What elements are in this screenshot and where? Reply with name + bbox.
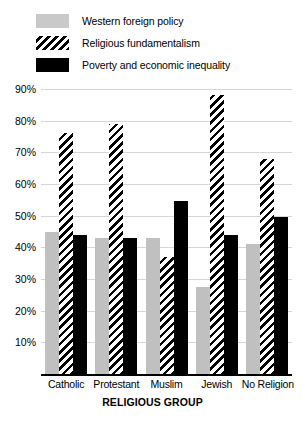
y-axis-tick-labels: 90%80%70%60%50%40%30%20%10%: [0, 89, 36, 374]
y-axis-tick-label: 10%: [4, 336, 36, 348]
bar-group: [146, 89, 188, 374]
bar-group-bars: [246, 89, 288, 374]
y-axis-tick-label: 80%: [4, 115, 36, 127]
y-axis-tick-label: 30%: [4, 273, 36, 285]
bar-chart: Western foreign policy Religious fundame…: [0, 0, 305, 422]
legend-swatch-black-icon: [36, 58, 69, 72]
bar: [210, 95, 224, 374]
bar-group-bars: [196, 89, 238, 374]
bar-group-bars: [45, 89, 87, 374]
bar: [274, 217, 288, 374]
legend-item-poverty-economic-inequality: Poverty and economic inequality: [36, 54, 296, 76]
bar: [95, 238, 109, 374]
bar-group-bars: [95, 89, 137, 374]
bar: [59, 133, 73, 374]
bar: [174, 201, 188, 374]
bar-group: [196, 89, 238, 374]
x-axis-tick-label: Muslim: [141, 378, 191, 390]
bar-group-bars: [146, 89, 188, 374]
bar-group: [95, 89, 137, 374]
legend-item-religious-fundamentalism: Religious fundamentalism: [36, 32, 296, 54]
x-axis-tick-label: No Religion: [242, 378, 292, 390]
bar: [73, 235, 87, 374]
x-axis-tick-label: Catholic: [41, 378, 91, 390]
chart-legend: Western foreign policy Religious fundame…: [36, 10, 296, 76]
bar-group: [246, 89, 288, 374]
y-axis-tick-label: 90%: [4, 83, 36, 95]
legend-label: Poverty and economic inequality: [82, 59, 230, 71]
bar: [45, 232, 59, 375]
bar: [109, 124, 123, 374]
y-axis-tick-label: 50%: [4, 210, 36, 222]
x-axis-title: RELIGIOUS GROUP: [0, 396, 305, 408]
x-axis-line: [41, 374, 292, 376]
plot-area: [41, 89, 292, 374]
x-axis-tick-label: Jewish: [192, 378, 242, 390]
legend-label: Western foreign policy: [82, 15, 184, 27]
bar-group: [45, 89, 87, 374]
bar: [160, 257, 174, 374]
bar: [246, 244, 260, 374]
y-axis-tick-label: 70%: [4, 146, 36, 158]
legend-swatch-gray-icon: [36, 14, 69, 28]
y-axis-tick-label: 40%: [4, 241, 36, 253]
bar: [260, 159, 274, 374]
y-axis-tick-label: 20%: [4, 305, 36, 317]
x-axis-tick-label: Protestant: [91, 378, 141, 390]
bar: [224, 235, 238, 374]
legend-swatch-hatched-icon: [36, 36, 69, 50]
bar: [123, 238, 137, 374]
bar: [146, 238, 160, 374]
y-axis-tick-label: 60%: [4, 178, 36, 190]
bar: [196, 287, 210, 374]
legend-label: Religious fundamentalism: [82, 37, 200, 49]
legend-item-western-foreign-policy: Western foreign policy: [36, 10, 296, 32]
